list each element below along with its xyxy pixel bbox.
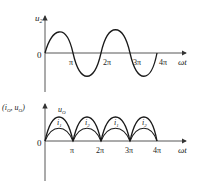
bottom-y-axis-label: (iO, uO)	[2, 103, 25, 113]
i2-curve-label: i2	[85, 118, 90, 128]
top-tick-4pi: 4π	[159, 58, 167, 67]
i2-curve-label-2: i2	[142, 118, 147, 128]
bottom-tick-2pi: 2π	[96, 146, 104, 155]
bottom-tick-4pi: 4π	[153, 146, 161, 155]
uo-curve-label: uO	[58, 105, 66, 115]
bottom-origin-label: 0	[37, 138, 42, 148]
top-plot: u2 0 π 2π 3π 4π ωt	[35, 13, 187, 92]
top-tick-3pi: 3π	[133, 58, 141, 67]
top-origin-label: 0	[37, 50, 42, 60]
i1-curve-label: i1	[57, 118, 62, 128]
bottom-plot: (iO, uO) uO i1 i2 i1 i2 0 π 2π 3π 4π ωt	[2, 103, 187, 181]
rectifier-waveform-diagram: u2 0 π 2π 3π 4π ωt (iO, uO) uO i1 i2 i1 …	[0, 0, 198, 193]
top-tick-pi: π	[69, 58, 73, 67]
top-tick-2pi: 2π	[103, 58, 111, 67]
bottom-tick-3pi: 3π	[125, 146, 133, 155]
top-x-axis-label: ωt	[178, 57, 187, 67]
bottom-tick-pi: π	[70, 146, 74, 155]
bottom-x-axis-label: ωt	[178, 145, 187, 155]
i1-curve-label-2: i1	[114, 118, 119, 128]
u2-axis-label: u2	[35, 13, 43, 24]
